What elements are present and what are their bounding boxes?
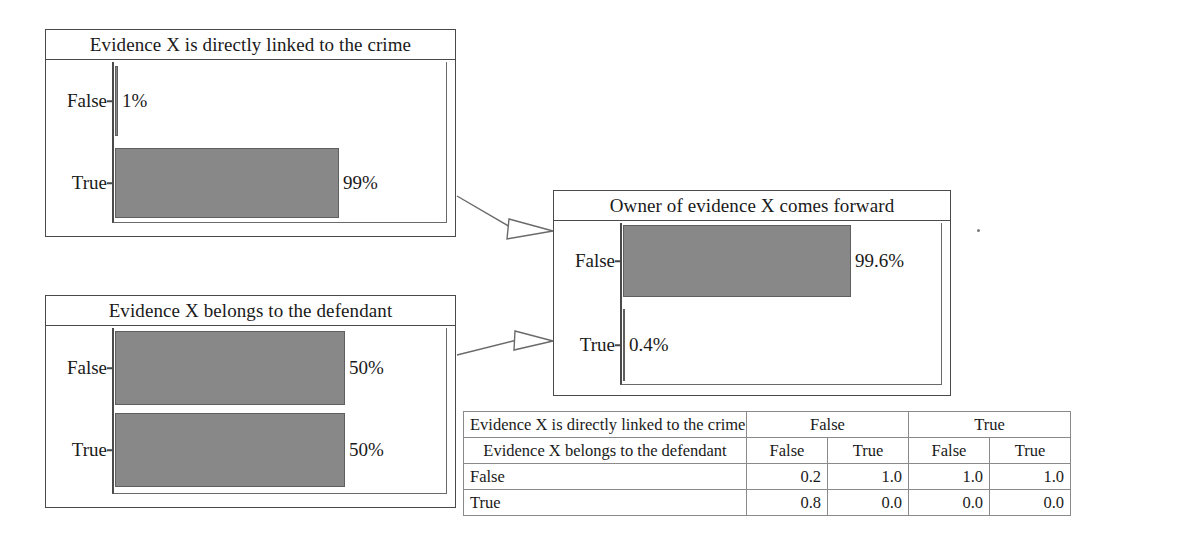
- arrowhead-belongs-to-owner: [514, 331, 553, 350]
- node-title: Evidence X belongs to the defendant: [46, 296, 455, 326]
- bar-row-true: True 99%: [114, 148, 446, 218]
- axis-tick: [615, 260, 622, 262]
- node-body: False 50% True 50%: [46, 326, 455, 507]
- state-label: True: [580, 334, 615, 356]
- bar-row-true: True 0.4%: [622, 309, 941, 381]
- bar-value: 50%: [349, 439, 384, 461]
- edge-linked-to-owner: [457, 196, 512, 228]
- state-label: True: [72, 439, 107, 461]
- bar-row-false: False 50%: [114, 331, 446, 405]
- cpt-parent-2-label: Evidence X belongs to the defendant: [464, 438, 747, 464]
- axis-tick: [615, 344, 622, 346]
- axis-tick: [107, 100, 114, 102]
- cpt-cell: 0.0: [990, 490, 1071, 516]
- axis-tick: [107, 367, 114, 369]
- cpt-cell: 1.0: [828, 464, 909, 490]
- node-evidence-belongs-to-defendant[interactable]: Evidence X belongs to the defendant Fals…: [45, 295, 456, 508]
- cpt-header-row-parent-2: Evidence X belongs to the defendant Fals…: [464, 438, 1071, 464]
- scan-speck: [977, 229, 980, 232]
- cpt-cell: 0.0: [909, 490, 990, 516]
- state-label: False: [575, 250, 615, 272]
- bar: [115, 66, 118, 136]
- cpt-cell: 0.8: [747, 490, 828, 516]
- state-label: False: [67, 90, 107, 112]
- bar-value: 99%: [343, 172, 378, 194]
- bar: [623, 309, 625, 381]
- cpt-cell: 1.0: [990, 464, 1071, 490]
- edge-belongs-to-owner: [457, 340, 517, 355]
- cpt-cell: 0.2: [747, 464, 828, 490]
- plot-area: False 99.6% True 0.4%: [620, 223, 942, 385]
- arrowhead-linked-to-owner: [507, 219, 553, 239]
- cpt-parent-1-group: False: [747, 412, 909, 438]
- bar-value: 99.6%: [855, 250, 904, 272]
- cpt-cell: 1.0: [909, 464, 990, 490]
- cpt-cell: 0.0: [828, 490, 909, 516]
- cpt-parent-1-group: True: [909, 412, 1071, 438]
- cpt-parent-2-group: False: [747, 438, 828, 464]
- state-label: True: [72, 172, 107, 194]
- plot-area: False 50% True 50%: [112, 328, 447, 494]
- node-title: Owner of evidence X comes forward: [554, 191, 950, 221]
- node-title: Evidence X is directly linked to the cri…: [46, 30, 455, 60]
- bar: [115, 413, 345, 487]
- bar: [115, 148, 339, 218]
- node-body: False 1% True 99%: [46, 60, 455, 236]
- axis-tick: [107, 182, 114, 184]
- bar-value: 0.4%: [629, 334, 669, 356]
- cpt-parent-2-group: True: [828, 438, 909, 464]
- bar-value: 50%: [349, 357, 384, 379]
- cpt-row-label: False: [464, 464, 747, 490]
- plot-area: False 1% True 99%: [112, 62, 447, 223]
- bar: [115, 331, 345, 405]
- cpt-parent-1-label: Evidence X is directly linked to the cri…: [464, 412, 747, 438]
- node-body: False 99.6% True 0.4%: [554, 221, 950, 395]
- node-evidence-linked-to-crime[interactable]: Evidence X is directly linked to the cri…: [45, 29, 456, 237]
- cpt-row: True 0.8 0.0 0.0 0.0: [464, 490, 1071, 516]
- bar-row-true: True 50%: [114, 413, 446, 487]
- bar-row-false: False 1%: [114, 66, 446, 136]
- state-label: False: [67, 357, 107, 379]
- bar: [623, 225, 851, 297]
- cpt-row-label: True: [464, 490, 747, 516]
- node-owner-comes-forward[interactable]: Owner of evidence X comes forward False …: [553, 190, 951, 396]
- cpt-parent-2-group: True: [990, 438, 1071, 464]
- bar-value: 1%: [122, 90, 147, 112]
- axis-tick: [107, 449, 114, 451]
- cpt-row: False 0.2 1.0 1.0 1.0: [464, 464, 1071, 490]
- cpt-parent-2-group: False: [909, 438, 990, 464]
- cpt-header-row-parent-1: Evidence X is directly linked to the cri…: [464, 412, 1071, 438]
- cpt-table: Evidence X is directly linked to the cri…: [463, 411, 1071, 516]
- bar-row-false: False 99.6%: [622, 225, 941, 297]
